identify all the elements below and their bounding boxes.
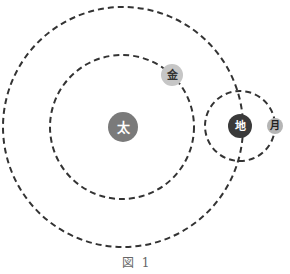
diagram-canvas bbox=[0, 0, 290, 274]
venus-label: 金 bbox=[167, 70, 178, 81]
figure-caption: 図 1 bbox=[122, 253, 151, 270]
earth-label: 地 bbox=[235, 121, 246, 132]
sun-label: 太 bbox=[117, 121, 130, 134]
moon-label: 月 bbox=[270, 121, 280, 131]
orbital-diagram: 太金地月 図 1 bbox=[0, 0, 290, 274]
